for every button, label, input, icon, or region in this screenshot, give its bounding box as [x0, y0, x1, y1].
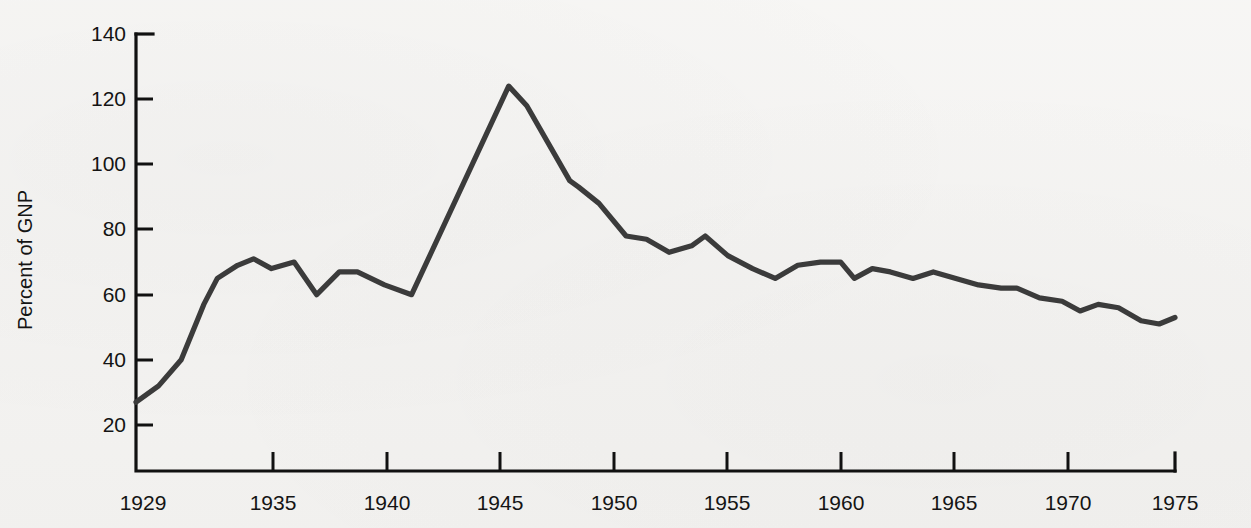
y-tick-label-120: 120: [91, 87, 126, 110]
x-axis-tick-labels: 1929 1935 1940 1945 1950 1955 1960 1965 …: [120, 491, 1199, 514]
y-axis-tick-labels: 140 120 100 80 60 40 20: [91, 22, 126, 436]
x-tick-label-1960: 1960: [818, 491, 865, 514]
y-tick-label-100: 100: [91, 152, 126, 175]
y-axis-ticks: [136, 99, 153, 425]
x-axis-ticks: [273, 452, 1068, 471]
x-tick-label-1929: 1929: [120, 491, 167, 514]
y-tick-label-40: 40: [103, 348, 126, 371]
x-tick-label-1955: 1955: [704, 491, 751, 514]
axis-frame: [136, 34, 1175, 471]
y-tick-label-80: 80: [103, 217, 126, 240]
line-chart-plot: Percent of GNP 140 120 100 80 60 40 20: [0, 0, 1251, 528]
y-tick-label-60: 60: [103, 283, 126, 306]
x-tick-label-1935: 1935: [250, 491, 297, 514]
x-tick-label-1945: 1945: [477, 491, 524, 514]
x-tick-label-1950: 1950: [591, 491, 638, 514]
x-tick-label-1970: 1970: [1045, 491, 1092, 514]
y-tick-label-140: 140: [91, 22, 126, 45]
chart-figure: Percent of GNP 140 120 100 80 60 40 20: [0, 0, 1251, 528]
data-series-percent-of-gnp: [136, 86, 1175, 402]
y-axis-title: Percent of GNP: [14, 190, 36, 330]
axis-lines: [136, 34, 1175, 471]
x-tick-label-1975: 1975: [1152, 491, 1199, 514]
x-tick-label-1940: 1940: [364, 491, 411, 514]
y-tick-label-20: 20: [103, 413, 126, 436]
x-tick-label-1965: 1965: [931, 491, 978, 514]
